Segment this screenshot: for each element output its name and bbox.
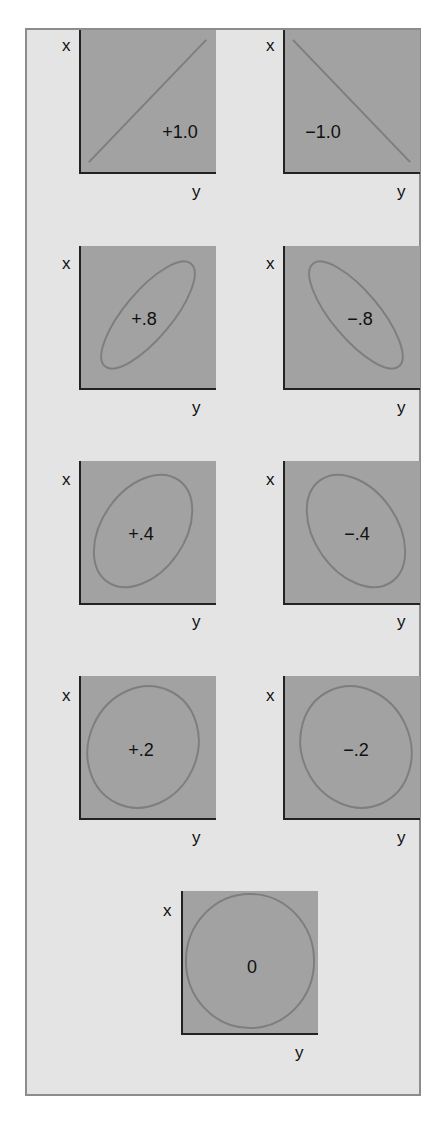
plot-area: +.4 <box>79 461 216 605</box>
correlation-label: −1.0 <box>305 122 341 143</box>
correlation-label: −.8 <box>347 309 373 330</box>
correlation-label: +.4 <box>128 524 154 545</box>
plot-area: +1.0 <box>79 30 216 174</box>
x-axis-label: x <box>62 686 71 706</box>
x-axis-label: x <box>163 901 172 921</box>
plot-area: −.8 <box>283 246 420 390</box>
plot-area: −.4 <box>283 461 420 605</box>
correlation-label: +.8 <box>131 309 157 330</box>
x-axis-label: x <box>62 36 71 56</box>
correlation-line-icon <box>285 30 420 172</box>
correlation-label: −.4 <box>344 524 370 545</box>
y-axis-label: y <box>192 182 201 202</box>
plot-area: +.2 <box>79 676 216 820</box>
x-axis-label: x <box>266 254 275 274</box>
plot-area: −1.0 <box>283 30 420 174</box>
y-axis-label: y <box>397 398 406 418</box>
plot-area: 0 <box>181 891 318 1035</box>
x-axis-label: x <box>62 470 71 490</box>
correlation-label: 0 <box>247 957 257 978</box>
y-axis-label: y <box>397 612 406 632</box>
x-axis-label: x <box>266 470 275 490</box>
y-axis-label: y <box>397 828 406 848</box>
y-axis-label: y <box>397 182 406 202</box>
correlation-label: +.2 <box>128 740 154 761</box>
x-axis-label: x <box>266 36 275 56</box>
x-axis-label: x <box>266 686 275 706</box>
plot-area: +.8 <box>79 246 216 390</box>
correlation-label: +1.0 <box>162 122 198 143</box>
correlation-label: −.2 <box>343 740 369 761</box>
y-axis-label: y <box>192 612 201 632</box>
correlation-line-icon <box>81 30 216 172</box>
x-axis-label: x <box>62 254 71 274</box>
y-axis-label: y <box>192 828 201 848</box>
y-axis-label: y <box>295 1043 304 1063</box>
y-axis-label: y <box>192 398 201 418</box>
plot-area: −.2 <box>283 676 420 820</box>
